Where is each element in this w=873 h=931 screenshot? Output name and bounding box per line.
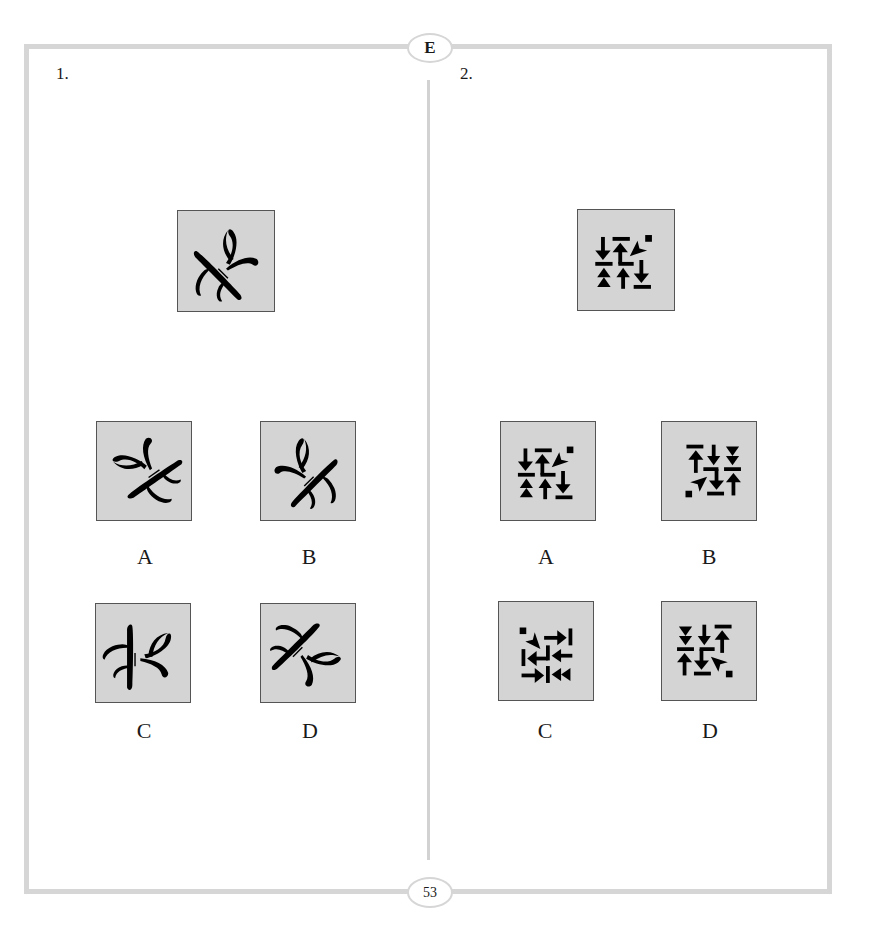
arrow-grid-icon [578, 210, 674, 310]
question-1-number: 1. [56, 64, 69, 84]
question-2-option-a[interactable] [500, 421, 596, 521]
question-2-stimulus [577, 209, 675, 311]
question-2-option-a-label[interactable]: A [526, 544, 566, 570]
calligraphic-aleph-icon [178, 211, 274, 311]
question-1-option-d[interactable] [260, 603, 356, 703]
question-2-option-b-label[interactable]: B [689, 544, 729, 570]
question-1-option-a-label[interactable]: A [125, 544, 165, 570]
page-number: 53 [423, 885, 437, 901]
arrow-grid-mirrored-icon [662, 602, 756, 700]
question-2-number: 2. [460, 64, 473, 84]
question-2-option-b[interactable] [661, 421, 757, 521]
question-1-option-d-label[interactable]: D [290, 718, 330, 744]
column-divider [427, 80, 430, 860]
question-1-option-b-label[interactable]: B [289, 544, 329, 570]
question-2-option-d-label[interactable]: D [690, 718, 730, 744]
question-1-option-c[interactable] [95, 603, 191, 703]
section-letter: E [424, 38, 435, 58]
arrow-grid-rotated-90-icon [499, 602, 593, 700]
arrow-grid-rotated-icon [662, 422, 756, 520]
calligraphic-aleph-upright-icon [96, 604, 190, 702]
question-1-option-c-label[interactable]: C [124, 718, 164, 744]
arrow-grid-variant-icon [501, 422, 595, 520]
calligraphic-aleph-rotated-icon [97, 422, 191, 520]
calligraphic-aleph-rotated-alt-icon [261, 604, 355, 702]
question-1-option-b[interactable] [260, 421, 356, 521]
section-badge: E [407, 33, 453, 63]
question-2-option-d[interactable] [661, 601, 757, 701]
page-number-badge: 53 [407, 877, 453, 908]
question-1-option-a[interactable] [96, 421, 192, 521]
question-2-option-c[interactable] [498, 601, 594, 701]
calligraphic-aleph-mirrored-icon [261, 422, 355, 520]
question-2-option-c-label[interactable]: C [525, 718, 565, 744]
question-1-stimulus [177, 210, 275, 312]
